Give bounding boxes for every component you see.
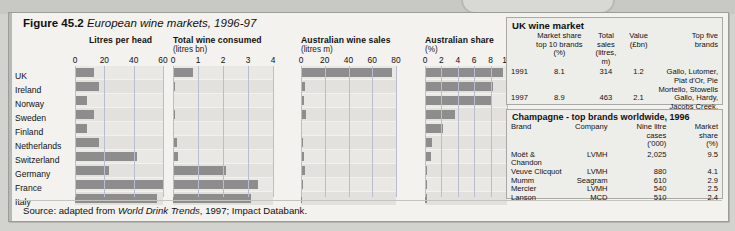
axis-tick-label: 0 xyxy=(171,55,176,65)
gridline xyxy=(349,66,350,197)
table-row: LansonMCD5102.4 xyxy=(507,194,722,203)
chart-plot: 0204060 xyxy=(75,55,163,197)
axis-tick-label: 6 xyxy=(472,55,477,65)
axis-tick-label: 1 xyxy=(196,55,201,65)
cell-year: 1991 xyxy=(507,68,532,94)
chart-x-axis: 01234 xyxy=(173,55,273,66)
chart-title: Total wine consumed xyxy=(173,35,262,45)
table-row: 19918.13141.2Gallo, Lutomer, Piat d'Or, … xyxy=(507,68,722,94)
gridline xyxy=(104,66,105,197)
figure-source: Source: adapted from World Drink Trends,… xyxy=(23,205,307,216)
uk-wine-market-table: UK wine market Market sharetop 10 brands… xyxy=(506,17,723,105)
gridline xyxy=(173,66,174,197)
uk-table-title: UK wine market xyxy=(507,18,722,32)
column-header: Nine litre cases('000) xyxy=(612,123,671,151)
axis-tick-label: 60 xyxy=(158,55,167,65)
gridline xyxy=(301,66,302,197)
axis-tick-label: 60 xyxy=(368,55,377,65)
gridline xyxy=(396,66,397,197)
figure-panel: Figure 45.2 European wine markets, 1996-… xyxy=(8,12,729,222)
chart-subtitle: (litres m) xyxy=(301,45,333,54)
column-header: Top fivebrands xyxy=(652,32,722,68)
axis-tick-label: 3 xyxy=(246,55,251,65)
column-header: Brand xyxy=(507,123,571,151)
column-header: Company xyxy=(571,123,612,151)
gridline xyxy=(223,66,224,197)
gridline xyxy=(198,66,199,197)
table-header-row: BrandCompanyNine litre cases('000)Market… xyxy=(507,123,722,151)
figure-left-rule xyxy=(9,13,12,221)
champagne-table-title: Champagne - top brands worldwide, 1996 xyxy=(507,110,722,123)
gridline xyxy=(163,66,164,197)
source-suffix: , 1997; Impact Databank. xyxy=(200,205,307,216)
cell-total-sales: 314 xyxy=(587,68,625,94)
champagne-table: BrandCompanyNine litre cases('000)Market… xyxy=(507,123,722,202)
source-prefix: Source: adapted from xyxy=(23,205,118,216)
cell-share: 2.4 xyxy=(670,194,722,203)
cell-cases: 510 xyxy=(612,194,671,203)
column-header: Market sharetop 10 brands (%) xyxy=(532,32,587,68)
axis-tick-label: 8 xyxy=(488,55,493,65)
chart-gridlines xyxy=(301,66,396,197)
chart-plot: 020406080 xyxy=(301,55,396,197)
axis-tick-label: 80 xyxy=(391,55,400,65)
chart-x-axis: 0246810 xyxy=(425,55,507,66)
axis-tick-label: 2 xyxy=(439,55,444,65)
axis-tick-label: 4 xyxy=(455,55,460,65)
chart-x-axis: 0204060 xyxy=(75,55,163,66)
gridline xyxy=(273,66,274,197)
chart-panel-2: Total wine consumed(litres bn)01234 xyxy=(173,35,287,197)
chart-gridlines xyxy=(425,66,507,197)
gridline xyxy=(474,66,475,197)
charts-area: Litres per head0204060Total wine consume… xyxy=(15,35,501,197)
gridline xyxy=(372,66,373,197)
gridline xyxy=(458,66,459,197)
cell-top-brands: Gallo, Lutomer, Piat d'Or, Pie Mortello,… xyxy=(652,68,722,94)
champagne-table-panel: Champagne - top brands worldwide, 1996 B… xyxy=(506,109,723,199)
cell-brand: Moët & Chandon xyxy=(507,151,571,168)
axis-tick-label: 0 xyxy=(73,55,78,65)
chart-title: Australian share xyxy=(425,35,494,45)
table-row: MummSeagram6102.9 xyxy=(507,177,722,186)
column-header: Market share(%) xyxy=(670,123,722,151)
cell-market-share: 8.1 xyxy=(532,68,587,94)
gridline xyxy=(134,66,135,197)
column-header: Value(£bn) xyxy=(625,32,652,68)
gridline xyxy=(491,66,492,197)
axis-tick-label: 20 xyxy=(100,55,109,65)
figure-number: Figure 45.2 xyxy=(23,17,84,29)
gridline xyxy=(441,66,442,197)
axis-tick-label: 40 xyxy=(129,55,138,65)
axis-tick-label: 20 xyxy=(320,55,329,65)
gridline xyxy=(325,66,326,197)
chart-x-axis: 020406080 xyxy=(301,55,396,66)
chart-panel-3: Australian wine sales(litres m)020406080 xyxy=(301,35,410,197)
chart-plot: 0246810 xyxy=(425,55,507,197)
chart-gridlines xyxy=(173,66,273,197)
cell-value: 1.2 xyxy=(625,68,652,94)
gridline xyxy=(425,66,426,197)
axis-tick-label: 0 xyxy=(299,55,304,65)
axis-tick-label: 2 xyxy=(221,55,226,65)
cell-brand: Lanson xyxy=(507,194,571,203)
column-header: Total sales(litres, m) xyxy=(587,32,625,68)
chart-panel-1: Litres per head0204060 xyxy=(75,35,177,197)
table-row: Moët & ChandonLVMH2,0259.5 xyxy=(507,151,722,168)
chart-gridlines xyxy=(75,66,163,197)
cell-cases: 2,025 xyxy=(612,151,671,168)
axis-tick-label: 0 xyxy=(423,55,428,65)
figure-caption: Figure 45.2 European wine markets, 1996-… xyxy=(23,17,256,29)
cell-share: 9.5 xyxy=(670,151,722,168)
gridline xyxy=(248,66,249,197)
table-row: Veuve ClicquotLVMH8804.1 xyxy=(507,168,722,177)
table-row: MercierLVMH5402.5 xyxy=(507,185,722,194)
chart-plot: 01234 xyxy=(173,55,273,197)
chart-title: Australian wine sales xyxy=(301,35,391,45)
figure-title: European wine markets, 1996-97 xyxy=(87,17,256,29)
scanned-figure-page: Figure 45.2 European wine markets, 1996-… xyxy=(0,0,735,231)
axis-tick-label: 40 xyxy=(344,55,353,65)
chart-title: Litres per head xyxy=(89,35,152,45)
gridline xyxy=(75,66,76,197)
chart-subtitle: (%) xyxy=(425,45,438,54)
axis-tick-label: 4 xyxy=(271,55,276,65)
